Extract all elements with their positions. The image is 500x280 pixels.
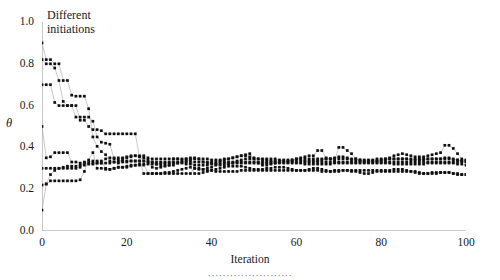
data-point: [125, 161, 128, 164]
data-point: [359, 161, 362, 164]
data-point: [456, 173, 459, 176]
data-point: [142, 163, 145, 166]
data-point: [316, 167, 319, 170]
data-point: [376, 161, 379, 164]
data-point: [125, 165, 128, 168]
data-point: [113, 167, 116, 170]
data-point: [83, 164, 86, 167]
data-point: [108, 162, 111, 165]
data-point: [388, 158, 391, 161]
data-point: [227, 165, 230, 168]
data-point: [172, 158, 175, 161]
data-point: [108, 132, 111, 135]
data-point: [121, 166, 124, 169]
data-point: [202, 168, 205, 171]
data-point: [83, 95, 86, 98]
data-point: [202, 164, 205, 167]
data-point: [58, 167, 61, 170]
data-point: [53, 179, 56, 182]
data-point: [371, 161, 374, 164]
data-point: [193, 172, 196, 175]
data-point: [87, 163, 90, 166]
data-point: [240, 154, 243, 157]
data-point: [151, 158, 154, 161]
data-point: [346, 149, 349, 152]
data-point: [236, 161, 239, 164]
data-point: [240, 165, 243, 168]
data-point: [181, 161, 184, 164]
data-point: [431, 161, 434, 164]
data-point: [87, 116, 90, 119]
data-point: [96, 167, 99, 170]
data-point: [405, 153, 408, 156]
data-point: [168, 158, 171, 161]
data-point: [193, 161, 196, 164]
data-point: [66, 151, 69, 154]
data-point: [253, 161, 256, 164]
data-point: [142, 172, 145, 175]
data-point: [83, 170, 86, 173]
data-point: [92, 160, 95, 163]
y-tick-label: 0.6: [0, 100, 34, 112]
y-tick-label: 0.8: [0, 58, 34, 70]
data-point: [104, 142, 107, 145]
data-point: [151, 161, 154, 164]
data-point: [342, 158, 345, 161]
data-point: [49, 179, 52, 182]
data-point: [79, 116, 82, 119]
data-point: [253, 168, 256, 171]
data-point: [96, 136, 99, 139]
data-point: [354, 161, 357, 164]
figure-caption: ·······················: [0, 271, 500, 280]
data-point: [117, 132, 120, 135]
data-point: [388, 161, 391, 164]
data-point: [49, 155, 52, 158]
data-point: [58, 104, 61, 107]
data-point: [202, 158, 205, 161]
data-point: [70, 179, 73, 182]
data-point: [380, 161, 383, 164]
data-point: [295, 158, 298, 161]
data-point: [380, 158, 383, 161]
data-point: [172, 170, 175, 173]
data-point: [410, 154, 413, 157]
data-point: [62, 179, 65, 182]
y-tick-label: 0.4: [0, 141, 34, 153]
data-point: [62, 151, 65, 154]
data-point: [210, 166, 213, 169]
data-point: [414, 158, 417, 161]
data-point: [244, 169, 247, 172]
data-point: [426, 154, 429, 157]
data-point: [100, 150, 103, 153]
data-point: [295, 161, 298, 164]
data-point: [261, 168, 264, 171]
data-point: [53, 169, 56, 172]
data-point: [42, 184, 43, 187]
data-point: [42, 167, 43, 170]
data-point: [393, 158, 396, 161]
data-point: [422, 158, 425, 161]
data-point: [282, 169, 285, 172]
chart-svg: [42, 22, 466, 231]
data-point: [278, 161, 281, 164]
data-point: [380, 169, 383, 172]
data-point: [206, 164, 209, 167]
data-point: [439, 151, 442, 154]
data-point: [231, 170, 234, 173]
data-point: [130, 155, 133, 158]
data-point: [405, 158, 408, 161]
data-point: [401, 152, 404, 155]
data-point: [92, 136, 95, 139]
data-point: [316, 161, 319, 164]
data-point: [75, 104, 78, 107]
data-point: [53, 67, 56, 70]
data-point: [219, 167, 222, 170]
data-point: [231, 157, 234, 160]
data-point: [96, 145, 99, 148]
data-point: [248, 161, 251, 164]
data-point: [282, 166, 285, 169]
data-point: [75, 165, 78, 168]
axes: [42, 22, 466, 231]
data-point: [350, 169, 353, 172]
data-point: [304, 158, 307, 161]
